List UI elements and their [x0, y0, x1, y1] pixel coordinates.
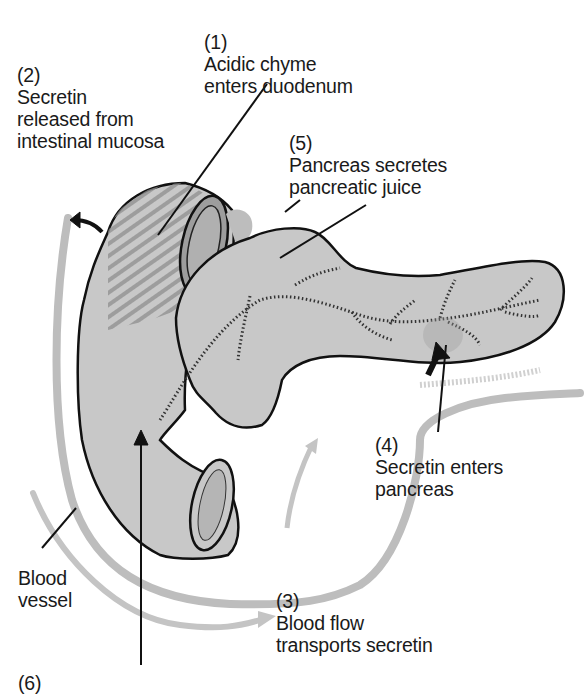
label-step3: (3) Blood flow transports secretin	[276, 590, 433, 656]
step5-number: (5)	[289, 132, 447, 154]
step4-line1: Secretin enters	[375, 456, 503, 478]
label-step6: (6)	[18, 672, 41, 694]
step3-line1: Blood flow	[276, 612, 433, 634]
step2-number: (2)	[17, 64, 164, 86]
step2-line3: intestinal mucosa	[17, 130, 164, 152]
step1-number: (1)	[204, 31, 353, 53]
step4-number: (4)	[375, 434, 503, 456]
label-blood-vessel: Blood vessel	[18, 567, 72, 611]
step3-number: (3)	[276, 590, 433, 612]
step5-line1: Pancreas secretes	[289, 154, 447, 176]
step1-line2: enters duodenum	[204, 75, 353, 97]
step2-line1: Secretin	[17, 86, 164, 108]
step1-line1: Acidic chyme	[204, 53, 353, 75]
label-step5: (5) Pancreas secretes pancreatic juice	[289, 132, 447, 198]
label-step1: (1) Acidic chyme enters duodenum	[204, 31, 353, 97]
step4-line2: pancreas	[375, 478, 503, 500]
step2-line2: released from	[17, 108, 164, 130]
step5-line2: pancreatic juice	[289, 176, 447, 198]
blood-vessel-line1: Blood	[18, 567, 72, 589]
step3-line2: transports secretin	[276, 634, 433, 656]
label-step4: (4) Secretin enters pancreas	[375, 434, 503, 500]
step6-number: (6)	[18, 672, 41, 694]
blood-vessel-line2: vessel	[18, 589, 72, 611]
label-step2: (2) Secretin released from intestinal mu…	[17, 64, 164, 152]
